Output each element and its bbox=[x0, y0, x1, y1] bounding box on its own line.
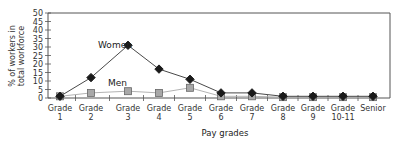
x-tick-label: Senior bbox=[360, 104, 386, 113]
x-tick-sublabel: 9 bbox=[310, 113, 315, 122]
chart-container: % of workers intotal workforce 051015202… bbox=[0, 0, 405, 144]
men-label: Men bbox=[108, 78, 127, 88]
series-labels: WomenMen bbox=[98, 40, 132, 88]
y-tick-label: 50 bbox=[33, 9, 43, 18]
y-tick-label: 15 bbox=[33, 69, 43, 78]
x-tick-sublabel: 10-11 bbox=[331, 113, 354, 122]
x-tick-label: Grade bbox=[209, 104, 233, 113]
y-tick-label: 30 bbox=[33, 43, 43, 52]
x-tick-label: Grade bbox=[331, 104, 355, 113]
x-tick-sublabel: 5 bbox=[187, 113, 192, 122]
x-tick-label: Grade bbox=[301, 104, 325, 113]
y-axis-title-line: % of workers in bbox=[8, 25, 17, 87]
men-square-marker bbox=[187, 84, 194, 91]
women-diamond-marker bbox=[186, 75, 194, 83]
x-tick-sublabel: 3 bbox=[125, 113, 130, 122]
y-tick-label: 10 bbox=[33, 77, 43, 86]
x-tick-sublabel: 6 bbox=[218, 113, 223, 122]
x-tick-label: Grade bbox=[178, 104, 202, 113]
women-diamond-marker bbox=[155, 65, 163, 73]
series-markers bbox=[56, 41, 377, 101]
women-label: Women bbox=[98, 40, 132, 50]
x-tick-label: Grade bbox=[79, 104, 103, 113]
x-tick-label: Grade bbox=[271, 104, 295, 113]
x-axis-title: Pay grades bbox=[202, 128, 249, 138]
y-axis-title: % of workers intotal workforce bbox=[8, 25, 26, 87]
women-line bbox=[60, 45, 373, 96]
x-tick-sublabel: 2 bbox=[88, 113, 93, 122]
x-tick-sublabel: 4 bbox=[156, 113, 161, 122]
men-square-marker bbox=[88, 89, 95, 96]
x-tick-label: Grade bbox=[147, 104, 171, 113]
y-tick-label: 0 bbox=[38, 94, 43, 103]
line-chart: % of workers intotal workforce 051015202… bbox=[0, 0, 405, 144]
y-tick-label: 20 bbox=[33, 60, 43, 69]
men-square-marker bbox=[156, 89, 163, 96]
x-tick-label: Grade bbox=[116, 104, 140, 113]
plot-frame bbox=[48, 13, 390, 98]
x-tick-label: Grade bbox=[48, 104, 72, 113]
men-square-marker bbox=[125, 88, 132, 95]
x-tick-label: Grade bbox=[240, 104, 264, 113]
x-tick-sublabel: 8 bbox=[280, 113, 285, 122]
y-tick-label: 45 bbox=[33, 18, 43, 27]
y-tick-label: 25 bbox=[33, 52, 43, 61]
x-tick-sublabel: 1 bbox=[57, 113, 62, 122]
y-tick-label: 35 bbox=[33, 35, 43, 44]
y-axis-title-line: total workforce bbox=[17, 26, 26, 86]
y-tick-label: 5 bbox=[38, 86, 43, 95]
x-tick-sublabel: 7 bbox=[249, 113, 254, 122]
y-tick-label: 40 bbox=[33, 26, 43, 35]
series-lines bbox=[60, 45, 373, 97]
